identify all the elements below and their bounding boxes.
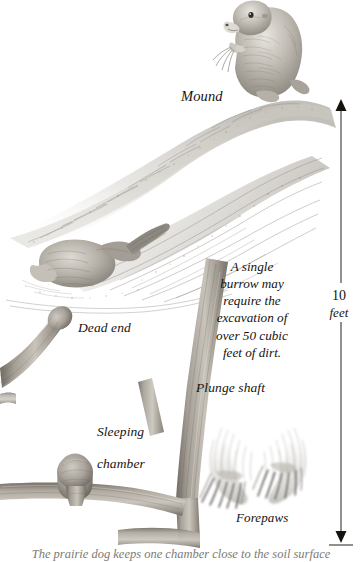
left-stub-tunnel [0, 393, 16, 405]
annotation-burrow-excavation: A single burrow may require the excavati… [196, 258, 308, 361]
label-mound: Mound [181, 88, 223, 105]
scale-unit: feet [322, 305, 356, 320]
label-sleeping-chamber-line1: Sleeping [97, 424, 144, 439]
label-sleeping-chamber-line2: chamber [97, 456, 145, 471]
label-plunge-shaft: Plunge shaft [196, 380, 265, 396]
label-forepaws: Forepaws [236, 510, 288, 525]
annotation-line-4: excavation of [196, 309, 308, 326]
annotation-line-2: burrow may [196, 275, 308, 292]
annotation-line-1: A single [196, 258, 308, 275]
scale-value: 10 [322, 288, 356, 305]
label-sleeping-chamber: Sleeping chamber [83, 408, 145, 488]
figure-caption: The prairie dog keeps one chamber close … [0, 547, 362, 562]
label-dead-end: Dead end [78, 320, 131, 336]
annotation-line-3: require the [196, 292, 308, 309]
annotation-line-6: feet of dirt. [196, 344, 308, 361]
annotation-line-5: over 50 cubic [196, 327, 308, 344]
